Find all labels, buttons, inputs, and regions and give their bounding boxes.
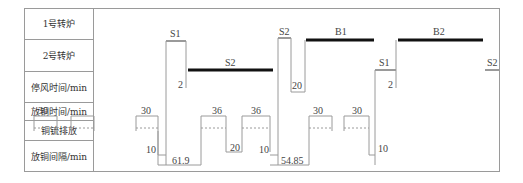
tap-time: 36	[212, 105, 222, 116]
stage-label: B2	[433, 26, 445, 37]
stage-label: S1	[379, 57, 390, 68]
stage-label: S1	[170, 28, 181, 39]
stage-label: S2	[225, 57, 236, 68]
stage-label: S2	[279, 26, 290, 37]
gap-time: 10	[259, 144, 269, 155]
stop-time: 2	[388, 79, 393, 90]
stage-label: S2	[487, 57, 498, 68]
tap-time: 30	[38, 105, 48, 116]
gap-time: 10	[146, 144, 156, 155]
interval: 61.9	[172, 155, 190, 166]
tap-time: 30	[313, 105, 323, 116]
stage-label: B1	[335, 26, 347, 37]
gap-time: 20	[230, 142, 240, 153]
stop-time: 20	[292, 80, 302, 91]
tap-time: 36	[251, 105, 261, 116]
tap-time: 30	[141, 105, 151, 116]
interval: 54.85	[281, 155, 304, 166]
gap-time: 10	[378, 143, 388, 154]
timeline-diagram: S1 S2 B1 B2 S2 S1 S2 2 20 2 30 30 36 36 …	[0, 0, 523, 183]
stop-time: 2	[178, 79, 183, 90]
tap-time: 30	[352, 105, 362, 116]
